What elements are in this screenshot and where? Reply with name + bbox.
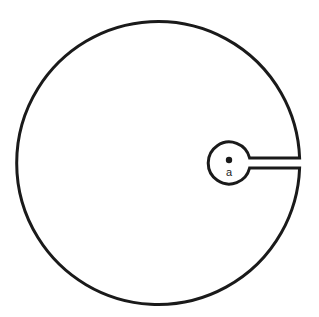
point-a-dot <box>226 157 232 163</box>
keyhole-contour <box>17 22 300 305</box>
point-a-label: a <box>226 166 233 178</box>
keyhole-contour-diagram: a <box>0 0 319 317</box>
